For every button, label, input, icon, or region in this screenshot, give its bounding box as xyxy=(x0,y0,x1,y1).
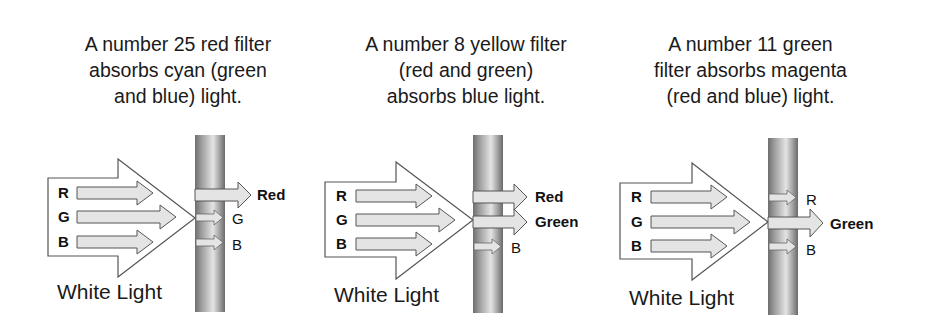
output-b-label: B xyxy=(232,237,242,253)
input-b-label: B xyxy=(631,238,642,254)
input-g-label: G xyxy=(58,209,70,225)
output-red-label: Red xyxy=(257,187,285,203)
input-g-label: G xyxy=(631,214,643,230)
input-r-label: R xyxy=(336,188,347,204)
output-b-label: B xyxy=(511,240,521,256)
output-green-label: Green xyxy=(830,216,873,232)
white-light-label: White Light xyxy=(629,287,734,309)
input-r-label: R xyxy=(58,185,69,201)
red-filter-icon xyxy=(195,135,225,312)
output-red-label: Red xyxy=(535,189,563,205)
white-light-label: White Light xyxy=(334,284,439,306)
output-r-label: R xyxy=(806,192,817,208)
white-light-label: White Light xyxy=(57,281,162,303)
input-r-label: R xyxy=(631,189,642,205)
input-g-label: G xyxy=(336,212,348,228)
input-b-label: B xyxy=(336,236,347,252)
output-g-label: G xyxy=(232,211,244,227)
output-green-label: Green xyxy=(535,214,578,230)
input-b-label: B xyxy=(58,234,69,250)
output-b-label: B xyxy=(806,242,816,258)
